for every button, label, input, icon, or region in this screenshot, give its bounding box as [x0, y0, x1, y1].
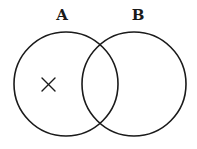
set-b-label: B	[132, 6, 145, 24]
set-a-circle	[14, 32, 118, 136]
cross-mark-icon	[42, 78, 55, 91]
set-b-circle	[82, 32, 186, 136]
set-a-label: A	[55, 6, 68, 24]
venn-diagram: A B	[0, 0, 197, 149]
